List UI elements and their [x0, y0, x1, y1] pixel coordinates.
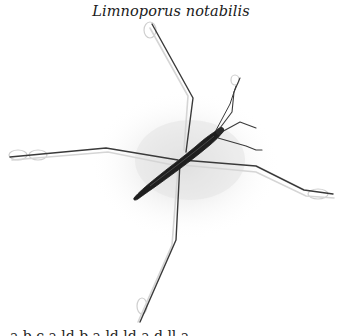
- figure-title: Limnoporus notabilis: [0, 3, 342, 19]
- figure-canvas: Limnoporus notabilis: [0, 0, 342, 336]
- water-strider-illustration: [0, 0, 342, 336]
- figure-caption-cutoff: a b c a ld b a ld ld a d ll a: [10, 328, 342, 336]
